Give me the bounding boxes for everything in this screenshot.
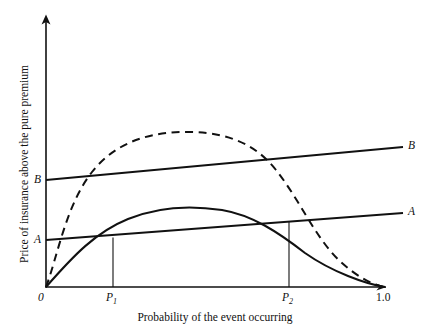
x-tick-p1: P1	[106, 291, 117, 306]
x-tick-p1-base: P	[106, 291, 113, 303]
x-axis-title: Probability of the event occurring	[0, 311, 430, 323]
y-axis-title: Price of insurance above the pure premiu…	[18, 34, 30, 294]
x-tick-p2-base: P	[282, 291, 289, 303]
chart-figure: Probability of the event occurring Price…	[0, 0, 430, 336]
x-tick-p2-subscript: 2	[289, 297, 293, 306]
series-label-b-right: B	[408, 139, 415, 151]
x-tick-max: 1.0	[376, 291, 390, 303]
x-tick-p1-subscript: 1	[113, 297, 117, 306]
x-tick-origin: 0	[38, 291, 44, 303]
y-level-label-a: A	[34, 233, 41, 245]
chart-plot-area	[0, 0, 430, 336]
series-label-a-right: A	[408, 205, 415, 217]
x-tick-p2: P2	[282, 291, 293, 306]
series-curve-solid	[46, 207, 385, 287]
y-level-label-b: B	[34, 173, 41, 185]
